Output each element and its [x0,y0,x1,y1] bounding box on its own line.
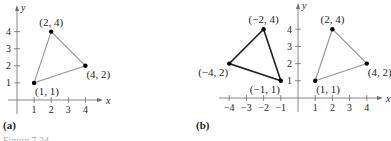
x-axis-label: x [385,93,391,104]
y-axis-arrow [296,3,300,9]
triangle-original [315,29,367,81]
data-point [330,27,334,31]
x-tick-label: 2 [330,102,335,113]
figure: xy12341234(1, 1)(2, 4)(4, 2) xy−4−3−2−11… [0,0,391,141]
y-tick-label: 3 [6,43,11,54]
x-tick-label: −2 [258,102,269,113]
point-label: (4, 2) [86,68,110,81]
x-tick-label: 1 [313,102,318,113]
x-tick-label: 4 [83,104,88,115]
x-tick-label: 1 [32,104,37,115]
x-tick-label: −4 [224,102,235,113]
triangle-reflected [229,29,281,81]
panel-a: xy12341234(1, 1)(2, 4)(4, 2) [6,2,111,115]
y-tick-label: 2 [6,60,11,71]
point-label: (−1, 1) [250,83,280,96]
triangle-original [34,32,85,83]
x-tick-label: 2 [49,104,54,115]
y-tick-label: 2 [287,58,292,69]
point-label: (1, 1) [35,85,59,98]
x-tick-label: 4 [364,102,369,113]
data-point [49,29,53,33]
point-label: (−4, 2) [198,66,228,79]
x-tick-label: −3 [241,102,252,113]
y-axis-arrow [15,5,19,11]
x-axis-arrow [97,98,103,102]
data-point [261,27,265,31]
x-tick-label: 3 [347,102,352,113]
y-tick-label: 1 [6,77,11,88]
point-label: (4, 2) [368,66,391,79]
y-axis-label: y [301,0,307,11]
x-tick-label: −1 [275,102,286,113]
figure-caption: Figure 7.24 [3,135,49,141]
y-tick-label: 4 [287,24,292,35]
panel-b: xy−4−3−2−112341234(−1, 1)(−2, 4)(−4, 2)(… [198,0,391,113]
point-label: (1, 1) [316,83,340,96]
y-axis-label: y [20,2,26,13]
x-tick-label: 3 [66,104,71,115]
panel-label-b: (b) [196,119,210,132]
y-tick-label: 4 [6,26,11,37]
point-label: (2, 4) [39,16,63,29]
y-tick-label: 1 [287,75,292,86]
x-axis-label: x [105,95,111,106]
point-label: (2, 4) [320,13,344,26]
point-label: (−2, 4) [249,13,279,26]
x-axis-arrow [377,96,383,100]
y-tick-label: 3 [287,41,292,52]
panel-label-a: (a) [3,119,16,132]
